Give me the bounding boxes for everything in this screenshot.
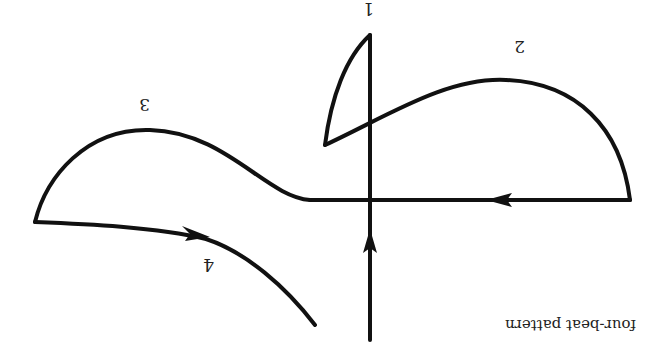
- four-beat-conducting-diagram: 1 2 3 4 four-beat pattern: [0, 0, 646, 357]
- diagram-caption: four-beat pattern: [505, 316, 636, 334]
- beat-4-curve: [35, 222, 315, 325]
- beat-4-label: 4: [203, 255, 214, 275]
- beat-1-label: 1: [363, 0, 374, 19]
- beat-2-label: 2: [514, 37, 525, 57]
- beat-3-label: 3: [139, 95, 150, 115]
- beat-3-curve: [35, 130, 310, 222]
